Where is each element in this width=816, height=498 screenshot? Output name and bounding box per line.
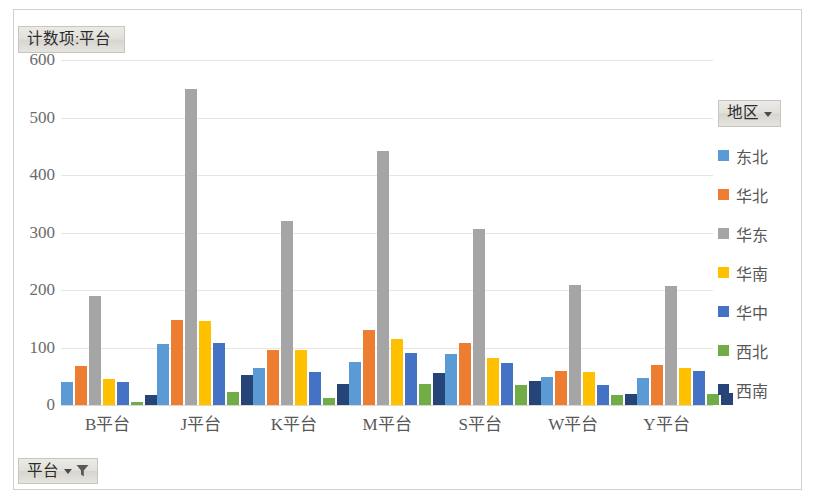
bar-group — [445, 60, 541, 405]
bar[interactable] — [337, 384, 349, 405]
y-axis-tick-label: 400 — [30, 165, 56, 185]
legend-color-swatch — [718, 228, 729, 239]
bar[interactable] — [651, 365, 663, 405]
legend-item[interactable]: 华北 — [718, 175, 798, 214]
bar[interactable] — [487, 358, 499, 405]
bar[interactable] — [363, 330, 375, 405]
legend-color-swatch — [718, 150, 729, 161]
x-axis-tick-label: J平台 — [154, 410, 247, 435]
legend-color-swatch — [718, 306, 729, 317]
bar[interactable] — [61, 382, 73, 405]
pivot-value-field-button[interactable]: 计数项:平台 — [18, 26, 125, 53]
bar[interactable] — [515, 385, 527, 405]
legend-color-swatch — [718, 189, 729, 200]
bar[interactable] — [693, 371, 705, 406]
legend-label: 东北 — [736, 144, 768, 168]
bar[interactable] — [349, 362, 361, 405]
bar[interactable] — [501, 363, 513, 405]
y-axis: 0100200300400500600 — [13, 60, 61, 405]
bar[interactable] — [391, 339, 403, 405]
chevron-down-icon[interactable] — [764, 112, 772, 117]
bar[interactable] — [253, 368, 265, 405]
x-axis-tick-label: K平台 — [247, 410, 340, 435]
bar[interactable] — [529, 381, 541, 405]
bar[interactable] — [473, 229, 485, 405]
bar[interactable] — [145, 395, 157, 405]
bar[interactable] — [131, 402, 143, 405]
legend-item[interactable]: 华中 — [718, 292, 798, 331]
legend-color-swatch — [718, 267, 729, 278]
bar[interactable] — [281, 221, 293, 405]
bar[interactable] — [459, 343, 471, 405]
legend-color-swatch — [718, 345, 729, 356]
bar[interactable] — [171, 320, 183, 405]
bar[interactable] — [541, 377, 553, 405]
bar[interactable] — [295, 350, 307, 405]
bar[interactable] — [157, 344, 169, 405]
bar[interactable] — [555, 371, 567, 406]
bar[interactable] — [75, 366, 87, 405]
legend-item[interactable]: 华南 — [718, 253, 798, 292]
legend-label: 西北 — [736, 339, 768, 363]
bar[interactable] — [445, 354, 457, 405]
legend-item[interactable]: 东北 — [718, 136, 798, 175]
y-axis-tick-label: 500 — [30, 108, 56, 128]
plot-canvas — [61, 60, 713, 405]
legend-label: 华东 — [736, 222, 768, 246]
funnel-filter-icon[interactable] — [75, 463, 90, 478]
value-field-label: 计数项:平台 — [27, 31, 111, 47]
x-axis-tick-label: W平台 — [527, 410, 620, 435]
bar[interactable] — [267, 350, 279, 405]
pivot-chart: 计数项:平台 地区 平台 0100200300400500600 B平台J平台K… — [0, 0, 816, 498]
legend-item[interactable]: 华东 — [718, 214, 798, 253]
bar[interactable] — [637, 378, 649, 405]
bar-group — [541, 60, 637, 405]
chart-legend: 东北华北华东华南华中西北西南 — [718, 136, 798, 409]
chart-plot-area: 0100200300400500600 B平台J平台K平台M平台S平台W平台Y平… — [13, 60, 713, 450]
x-axis-tick-label: M平台 — [340, 410, 433, 435]
bar-group — [61, 60, 157, 405]
bar-group — [157, 60, 253, 405]
legend-label: 华北 — [736, 183, 768, 207]
chevron-down-icon[interactable] — [64, 469, 72, 474]
bar[interactable] — [323, 398, 335, 405]
bar[interactable] — [377, 151, 389, 405]
legend-label: 华南 — [736, 261, 768, 285]
legend-label: 华中 — [736, 300, 768, 324]
bar[interactable] — [679, 368, 691, 405]
y-axis-tick-label: 300 — [30, 223, 56, 243]
x-axis-tick-label: B平台 — [61, 410, 154, 435]
bar[interactable] — [665, 286, 677, 405]
x-axis-tick-label: S平台 — [434, 410, 527, 435]
bar[interactable] — [309, 372, 321, 405]
page-field-label: 平台 — [27, 463, 59, 479]
y-axis-tick-label: 100 — [30, 338, 56, 358]
bar[interactable] — [611, 395, 623, 405]
legend-color-swatch — [718, 384, 729, 395]
y-axis-tick-label: 200 — [30, 280, 56, 300]
bar[interactable] — [213, 343, 225, 405]
bar[interactable] — [117, 382, 129, 405]
bar[interactable] — [625, 394, 637, 406]
bar[interactable] — [185, 89, 197, 405]
bar[interactable] — [419, 384, 431, 405]
bar[interactable] — [597, 385, 609, 405]
legend-item[interactable]: 西南 — [718, 370, 798, 409]
bar[interactable] — [199, 321, 211, 405]
legend-label: 西南 — [736, 378, 768, 402]
bar-group — [253, 60, 349, 405]
bar-group — [349, 60, 445, 405]
x-axis-tick-label: Y平台 — [620, 410, 713, 435]
bar[interactable] — [241, 375, 253, 405]
legend-item[interactable]: 西北 — [718, 331, 798, 370]
bar[interactable] — [405, 353, 417, 405]
bar[interactable] — [89, 296, 101, 405]
bar[interactable] — [433, 373, 445, 405]
bar[interactable] — [103, 379, 115, 405]
bar[interactable] — [583, 372, 595, 405]
y-axis-tick-label: 600 — [30, 50, 56, 70]
bars-layer — [61, 60, 713, 405]
bar[interactable] — [569, 285, 581, 405]
bar[interactable] — [227, 392, 239, 405]
pivot-page-field-button[interactable]: 平台 — [18, 458, 98, 485]
